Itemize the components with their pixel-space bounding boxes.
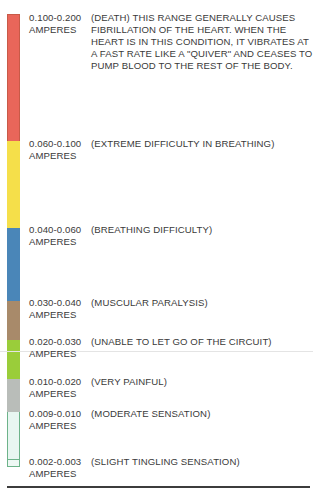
segment-slight-tingling (7, 459, 20, 467)
effect-description: (VERY PAINFUL) (91, 376, 313, 388)
effect-description: (UNABLE TO LET GO OF THE CIRCUIT) (91, 336, 313, 348)
range-label: 0.010-0.020AMPERES (29, 376, 81, 400)
effect-description: (DEATH) THIS RANGE GENERALLY CAUSES FIBR… (91, 12, 313, 72)
segment-muscular-paralysis (7, 301, 20, 341)
segment-very-painful (7, 379, 20, 413)
range-label: 0.060-0.100AMPERES (29, 138, 81, 162)
range-label: 0.002-0.003AMPERES (29, 456, 81, 480)
effect-description: (EXTREME DIFFICULTY IN BREATHING) (91, 138, 313, 150)
segment-moderate-sensation (7, 412, 20, 460)
effect-description: (BREATHING DIFFICULTY) (91, 224, 313, 236)
range-label: 0.100-0.200AMPERES (29, 12, 81, 36)
range-label: 0.040-0.060AMPERES (29, 224, 81, 248)
segment-breathing-difficulty (7, 228, 20, 302)
range-label: 0.020-0.030AMPERES (29, 336, 81, 360)
bottom-rule (7, 486, 310, 488)
range-label: 0.030-0.040AMPERES (29, 297, 81, 321)
range-label: 0.009-0.010AMPERES (29, 408, 81, 432)
effect-description: (SLIGHT TINGLING SENSATION) (91, 456, 313, 468)
segment-death (7, 14, 20, 142)
segment-unable-to-let-go (7, 340, 20, 380)
effect-description: (MODERATE SENSATION) (91, 408, 313, 420)
segment-extreme-breathing (7, 141, 20, 229)
effect-description: (MUSCULAR PARALYSIS) (91, 297, 313, 309)
